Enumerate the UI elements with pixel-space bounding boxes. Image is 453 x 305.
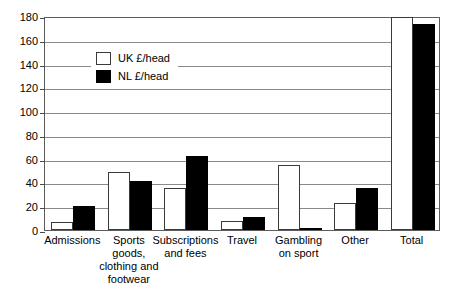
y-axis-tick [40, 208, 45, 209]
bar-nl [130, 181, 152, 230]
legend-label-uk: UK £/head [118, 52, 170, 65]
bar-uk [164, 188, 186, 230]
legend: UK £/head NL £/head [91, 45, 178, 89]
bar-uk [334, 203, 356, 230]
legend-entry-uk: UK £/head [96, 49, 170, 67]
black-square-swatch-icon [96, 70, 111, 83]
bar-nl [186, 156, 208, 230]
y-axis-tick [40, 42, 45, 43]
y-axis-tick-label: 40 [10, 178, 38, 189]
bar-chart-figure: 020406080100120140160180 UK £/head NL £/… [0, 0, 453, 305]
bar-group [328, 18, 385, 230]
bar-nl [243, 217, 265, 230]
bar-nl [73, 206, 95, 230]
bar-group [271, 18, 328, 230]
y-axis-tick [40, 18, 45, 19]
y-axis-tick-label: 140 [10, 59, 38, 70]
y-axis-tick [40, 161, 45, 162]
y-axis-tick [40, 89, 45, 90]
bar-nl [356, 188, 378, 230]
white-square-swatch-icon [96, 52, 111, 65]
y-axis-tick-label: 160 [10, 35, 38, 46]
legend-entry-nl: NL £/head [96, 67, 170, 85]
x-axis-tick-label: Total [375, 234, 448, 247]
y-axis-tick-label: 120 [10, 83, 38, 94]
y-axis-tick [40, 232, 45, 233]
bar-uk [51, 222, 73, 230]
y-axis-tick-label: 0 [10, 226, 38, 237]
bar-group [215, 18, 272, 230]
y-axis-tick [40, 184, 45, 185]
bar-group [384, 18, 441, 230]
bar-uk [278, 165, 300, 230]
y-axis-tick [40, 137, 45, 138]
bar-uk [221, 221, 243, 231]
y-axis-tick-label: 60 [10, 154, 38, 165]
y-axis: 020406080100120140160180 [10, 0, 38, 305]
plot-area: UK £/head NL £/head [44, 17, 440, 231]
bar-uk [391, 17, 413, 230]
bar-uk [108, 172, 130, 230]
bar-nl [413, 24, 435, 230]
x-axis: AdmissionsSports goods, clothing and foo… [44, 234, 440, 304]
bar-nl [300, 228, 322, 230]
y-axis-tick-label: 100 [10, 107, 38, 118]
y-axis-tick-label: 180 [10, 12, 38, 23]
y-axis-tick-label: 80 [10, 130, 38, 141]
y-axis-tick-label: 20 [10, 202, 38, 213]
y-axis-tick [40, 66, 45, 67]
y-axis-tick [40, 113, 45, 114]
legend-label-nl: NL £/head [118, 70, 168, 83]
